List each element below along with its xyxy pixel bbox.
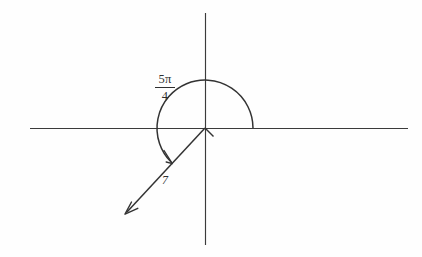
angle-measure-label: 5π 4 (150, 73, 180, 102)
angle-diagram-canvas (0, 0, 422, 257)
radius-length-label: 7 (162, 174, 168, 186)
angle-diagram-figure: 5π 4 7 (0, 0, 422, 257)
angle-label-numerator: 5π (150, 73, 180, 87)
origin-tick-mark (205, 128, 214, 137)
angle-arc-arrowhead (164, 151, 172, 164)
terminal-ray (127, 128, 205, 212)
angle-label-denominator: 4 (150, 89, 180, 103)
fraction-bar (155, 87, 175, 88)
